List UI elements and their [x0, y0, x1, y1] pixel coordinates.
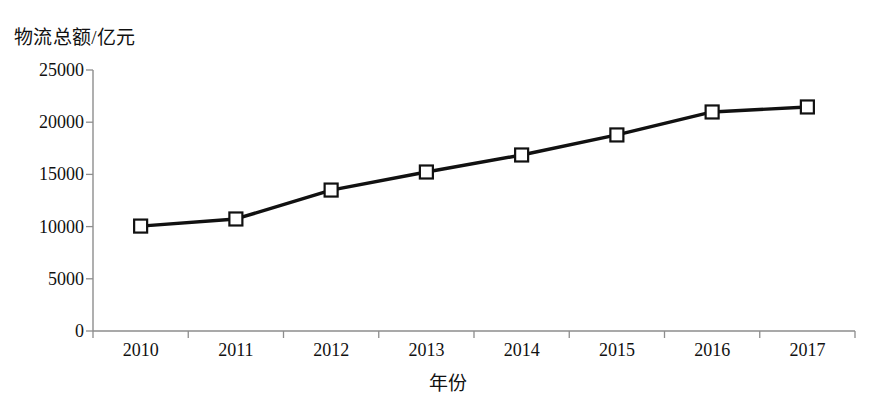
x-tick-label: 2012 — [281, 340, 381, 361]
y-tick-label: 20000 — [39, 113, 84, 131]
y-tick-marks — [86, 70, 93, 331]
line-chart: 物流总额/亿元 0500010000150002000025000 201020… — [0, 0, 881, 416]
x-tick-label: 2017 — [757, 340, 857, 361]
data-point-marker — [229, 212, 242, 225]
x-tick-label: 2016 — [662, 340, 762, 361]
series-line-wuliu — [141, 107, 808, 226]
data-point-marker — [515, 148, 528, 161]
y-tick-label: 5000 — [48, 270, 84, 288]
x-tick-label: 2013 — [376, 340, 476, 361]
data-point-marker — [134, 220, 147, 233]
y-tick-label: 25000 — [39, 61, 84, 79]
x-tick-label: 2011 — [186, 340, 286, 361]
x-tick-label: 2015 — [567, 340, 667, 361]
data-point-marker — [801, 100, 814, 113]
y-tick-label: 10000 — [39, 218, 84, 236]
data-point-marker — [610, 128, 623, 141]
data-point-marker — [325, 184, 338, 197]
x-tick-label: 2014 — [472, 340, 572, 361]
data-point-marker — [706, 105, 719, 118]
x-axis-title-text: 年份 — [415, 373, 467, 394]
x-axis-title: 年份 — [0, 368, 881, 395]
series-markers — [134, 100, 814, 232]
y-tick-label: 15000 — [39, 165, 84, 183]
data-point-marker — [420, 166, 433, 179]
x-tick-marks — [93, 331, 855, 338]
x-tick-label: 2010 — [91, 340, 191, 361]
y-tick-label: 0 — [75, 322, 84, 340]
